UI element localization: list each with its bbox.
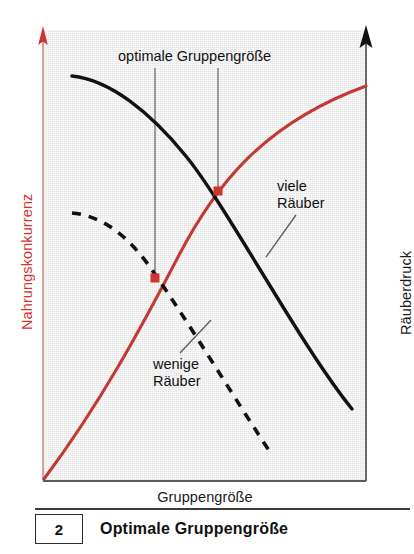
figure-title: Optimale Gruppengröße bbox=[100, 514, 288, 544]
annotation-viele-raeuber-line1: viele bbox=[277, 178, 325, 195]
annotation-wenige-raeuber-line1: wenige bbox=[153, 356, 201, 373]
annotation-viele-raeuber: viele Räuber bbox=[277, 178, 325, 212]
annotation-wenige-raeuber: wenige Räuber bbox=[153, 356, 201, 390]
annotation-optimale-gruppengroesse: optimale Gruppengröße bbox=[118, 48, 271, 65]
pointer-line-wenige-raeuber bbox=[180, 320, 211, 353]
x-axis-label: Gruppengröße bbox=[0, 489, 410, 505]
figure-number: 2 bbox=[35, 514, 83, 544]
series-nahrungskonkurrenz bbox=[44, 86, 366, 479]
y-axis-left-label: Nahrungskonkurrenz bbox=[19, 194, 35, 330]
figure-caption: 2 Optimale Gruppengröße bbox=[0, 508, 410, 554]
annotation-viele-raeuber-line2: Räuber bbox=[277, 195, 325, 212]
annotation-wenige-raeuber-line2: Räuber bbox=[153, 373, 201, 390]
pointer-line-viele-raeuber bbox=[266, 215, 296, 257]
y-axis-right-label: Räuberdruck bbox=[398, 251, 414, 335]
intersection-marker-wenige bbox=[151, 274, 160, 283]
caption-divider bbox=[35, 508, 410, 510]
series-wenige-raeuber bbox=[72, 213, 272, 455]
intersection-marker-viele bbox=[214, 187, 223, 196]
